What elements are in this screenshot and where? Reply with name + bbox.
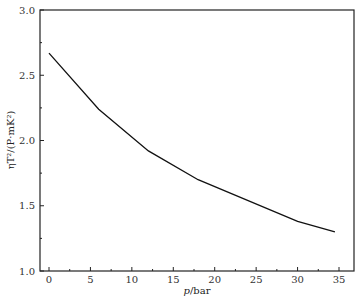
line-chart: 1.01.52.02.53.0 05101520253035 p/bar ηT²… — [0, 0, 357, 299]
y-tick-label: 1.5 — [19, 200, 35, 211]
y-tick-label: 2.0 — [19, 135, 35, 146]
x-axis-ticks: 05101520253035 — [46, 267, 346, 285]
x-tick-label: 10 — [125, 274, 138, 285]
x-tick-label: 0 — [46, 274, 52, 285]
y-tick-label: 3.0 — [19, 5, 35, 16]
x-tick-label: 5 — [87, 274, 93, 285]
y-axis-label: ηT²/(P·mK²) — [5, 111, 16, 170]
x-tick-label: 25 — [250, 274, 263, 285]
x-tick-label: 35 — [333, 274, 346, 285]
x-tick-label: 20 — [208, 274, 221, 285]
x-axis-label: p/bar — [184, 285, 211, 296]
y-tick-label: 1.0 — [19, 266, 35, 277]
x-tick-label: 15 — [167, 274, 180, 285]
x-tick-label: 30 — [291, 274, 304, 285]
y-tick-label: 2.5 — [19, 70, 35, 81]
plot-frame — [40, 10, 354, 271]
data-line — [49, 53, 335, 232]
